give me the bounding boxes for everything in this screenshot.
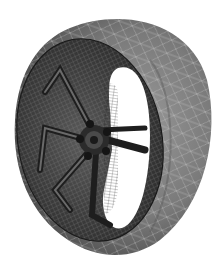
wheel-render [0,0,224,262]
